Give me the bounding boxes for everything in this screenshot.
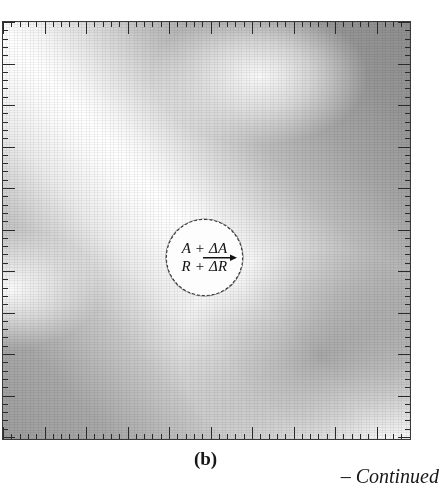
minor-tick xyxy=(405,80,410,81)
major-tick xyxy=(252,427,253,439)
minor-tick xyxy=(186,434,187,439)
minor-tick xyxy=(144,434,145,439)
minor-tick xyxy=(405,205,410,206)
ruler-axis-left xyxy=(3,22,17,439)
minor-tick xyxy=(405,88,410,89)
major-tick xyxy=(398,188,410,189)
minor-tick xyxy=(78,434,79,439)
minor-tick xyxy=(136,434,137,439)
major-tick xyxy=(128,22,129,34)
major-tick xyxy=(211,22,212,34)
minor-tick xyxy=(103,22,104,27)
minor-tick xyxy=(352,434,353,439)
major-tick xyxy=(398,313,410,314)
minor-tick xyxy=(3,30,8,31)
minor-tick xyxy=(405,296,410,297)
minor-tick xyxy=(285,22,286,27)
minor-tick xyxy=(385,22,386,27)
minor-tick xyxy=(227,22,228,27)
minor-tick xyxy=(3,279,8,280)
minor-tick xyxy=(3,205,8,206)
major-tick xyxy=(398,147,410,148)
major-tick xyxy=(252,22,253,34)
minor-tick xyxy=(405,171,410,172)
minor-tick xyxy=(20,434,21,439)
minor-tick xyxy=(3,238,8,239)
major-tick xyxy=(398,64,410,65)
major-tick xyxy=(294,427,295,439)
minor-tick xyxy=(3,72,8,73)
figure-root: A + ΔA R + ΔR (b) – Continued xyxy=(0,0,445,494)
minor-tick xyxy=(368,22,369,27)
minor-tick xyxy=(405,55,410,56)
minor-tick xyxy=(352,22,353,27)
major-tick xyxy=(398,271,410,272)
minor-tick xyxy=(78,22,79,27)
minor-tick xyxy=(3,122,8,123)
minor-tick xyxy=(3,329,8,330)
major-tick xyxy=(3,147,15,148)
minor-tick xyxy=(3,337,8,338)
image-panel: A + ΔA R + ΔR xyxy=(2,21,411,440)
major-tick xyxy=(398,22,410,23)
minor-tick xyxy=(405,163,410,164)
minor-tick xyxy=(405,321,410,322)
minor-tick xyxy=(177,434,178,439)
major-tick xyxy=(3,230,15,231)
right-arrow-icon xyxy=(203,253,237,262)
minor-tick xyxy=(3,155,8,156)
minor-tick xyxy=(405,420,410,421)
minor-tick xyxy=(3,221,8,222)
minor-tick xyxy=(3,97,8,98)
minor-tick xyxy=(405,196,410,197)
minor-tick xyxy=(405,371,410,372)
minor-tick xyxy=(405,263,410,264)
minor-tick xyxy=(318,434,319,439)
minor-tick xyxy=(3,47,8,48)
magnification-callout-circle: A + ΔA R + ΔR xyxy=(166,219,243,296)
minor-tick xyxy=(61,434,62,439)
minor-tick xyxy=(405,246,410,247)
ruler-axis-right xyxy=(396,22,410,439)
minor-tick xyxy=(3,429,8,430)
minor-tick xyxy=(235,434,236,439)
major-tick xyxy=(398,396,410,397)
minor-tick xyxy=(310,22,311,27)
minor-tick xyxy=(405,113,410,114)
minor-tick xyxy=(327,22,328,27)
minor-tick xyxy=(405,155,410,156)
minor-tick xyxy=(269,434,270,439)
minor-tick xyxy=(405,288,410,289)
minor-tick xyxy=(111,434,112,439)
major-tick xyxy=(398,105,410,106)
major-tick xyxy=(3,354,15,355)
minor-tick xyxy=(186,22,187,27)
minor-tick xyxy=(152,434,153,439)
minor-tick xyxy=(405,47,410,48)
minor-tick xyxy=(219,22,220,27)
minor-tick xyxy=(3,80,8,81)
minor-tick xyxy=(3,304,8,305)
minor-tick xyxy=(405,122,410,123)
minor-tick xyxy=(161,434,162,439)
minor-tick xyxy=(235,22,236,27)
minor-tick xyxy=(3,321,8,322)
minor-tick xyxy=(285,434,286,439)
minor-tick xyxy=(393,22,394,27)
minor-tick xyxy=(103,434,104,439)
minor-tick xyxy=(3,163,8,164)
major-tick xyxy=(398,437,410,438)
minor-tick xyxy=(194,22,195,27)
minor-tick xyxy=(405,213,410,214)
minor-tick xyxy=(53,22,54,27)
major-tick xyxy=(3,313,15,314)
minor-tick xyxy=(53,434,54,439)
major-tick xyxy=(86,427,87,439)
minor-tick xyxy=(202,434,203,439)
ruler-axis-bottom xyxy=(3,425,410,439)
major-tick xyxy=(3,64,15,65)
minor-tick xyxy=(405,346,410,347)
major-tick xyxy=(398,230,410,231)
minor-tick xyxy=(302,22,303,27)
major-tick xyxy=(3,271,15,272)
